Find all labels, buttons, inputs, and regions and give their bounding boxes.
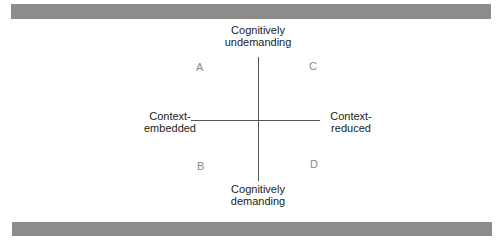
label-line-2: undemanding [200,36,316,48]
label-line-1: Context- [136,110,204,122]
top-border-bar [11,4,491,19]
label-context-reduced: Context- reduced [323,110,379,134]
label-line-2: embedded [136,122,204,134]
quadrant-c-label: C [309,60,317,72]
label-line-1: Cognitively [200,183,316,195]
label-line-2: reduced [323,122,379,134]
label-cognitively-undemanding: Cognitively undemanding [200,24,316,48]
quadrant-b-label: B [197,160,204,172]
label-line-2: demanding [200,195,316,207]
label-line-1: Context- [323,110,379,122]
horizontal-axis [191,120,320,121]
bottom-border-bar [12,222,492,236]
quadrant-d-label: D [310,158,318,170]
label-cognitively-demanding: Cognitively demanding [200,183,316,207]
label-line-1: Cognitively [200,24,316,36]
vertical-axis [258,57,259,181]
quadrant-a-label: A [196,61,203,73]
label-context-embedded: Context- embedded [136,110,204,134]
